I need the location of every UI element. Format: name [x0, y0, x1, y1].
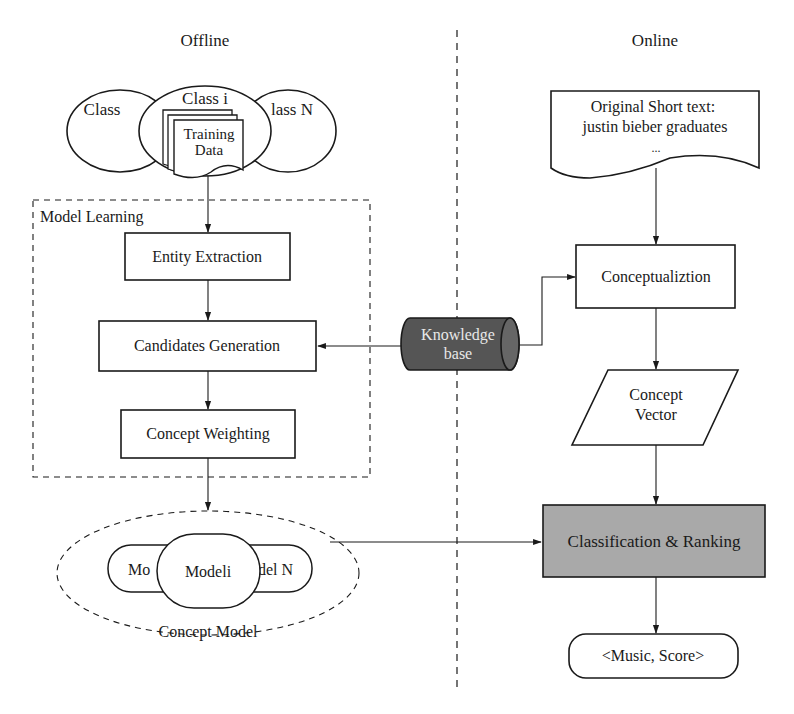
- concept-weighting-label: Concept Weighting: [146, 425, 269, 443]
- knowledge-base-line1: Knowledge: [421, 326, 495, 344]
- short-text-line2: justin bieber graduates: [582, 118, 728, 136]
- classification-ranking-label: Classification & Ranking: [568, 532, 741, 551]
- conceptualization-label: Conceptualiztion: [601, 268, 710, 286]
- arrow-kb-to-conceptualization: [519, 277, 575, 345]
- entity-extraction-label: Entity Extraction: [152, 248, 262, 266]
- knowledge-base-cap: [501, 318, 519, 370]
- class-left-label: Class: [84, 100, 121, 119]
- training-data-line2: Data: [195, 142, 224, 158]
- concept-model-label: Concept Model: [158, 623, 258, 641]
- concept-vector-line1: Concept: [629, 386, 683, 404]
- knowledge-base-line2: base: [444, 345, 472, 362]
- result-label: <Music, Score>: [602, 647, 704, 664]
- class-i-label: Class i: [182, 89, 228, 108]
- knowledge-base-cylinder: Knowledge base: [401, 318, 519, 370]
- short-text-line1: Original Short text:: [591, 98, 715, 116]
- model-i-label: Modeli: [185, 563, 232, 580]
- model-back-right-label: del N: [258, 561, 294, 578]
- short-text-line3: ...: [652, 141, 661, 155]
- concept-vector-line2: Vector: [635, 406, 677, 423]
- class-right-label: lass N: [271, 100, 313, 119]
- online-title: Online: [632, 31, 678, 50]
- training-data-line1: Training: [183, 126, 235, 142]
- candidates-generation-label: Candidates Generation: [134, 337, 280, 354]
- model-learning-title: Model Learning: [40, 208, 144, 226]
- model-back-left-label: Mo: [128, 561, 150, 578]
- offline-title: Offline: [181, 31, 230, 50]
- flow-diagram: Offline Online Class lass N Class i Trai…: [0, 0, 794, 714]
